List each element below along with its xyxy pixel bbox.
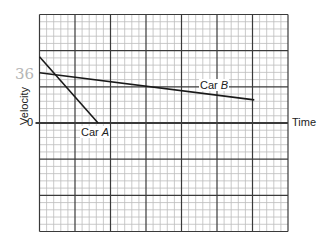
car-a-label: Car A [80,126,110,138]
car-b-label-prefix: Car [200,79,221,91]
car-b-label-letter: B [221,79,228,91]
velocity-time-chart [0,0,326,242]
major-grid [36,15,289,232]
car-b-label: Car B [199,79,229,91]
car-a-label-letter: A [102,126,109,138]
handwritten-annotation: 36 [15,65,34,83]
car-a-label-prefix: Car [81,126,102,138]
x-axis-label: Time [292,116,316,128]
y-tick-zero: 0 [27,116,33,128]
